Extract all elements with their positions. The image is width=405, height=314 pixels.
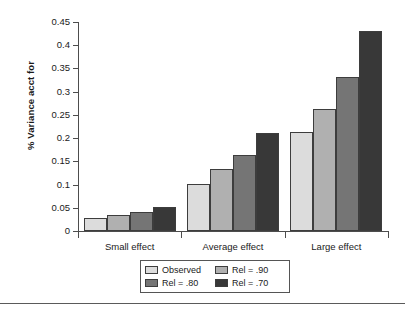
y-axis-tick [73, 208, 79, 209]
x-axis-category-label: Large effect [286, 241, 386, 252]
bar [107, 215, 130, 231]
legend-entry: Rel = .90 [215, 265, 285, 275]
y-axis-tick [73, 68, 79, 69]
bars-layer [78, 22, 389, 231]
x-axis-tick [388, 232, 389, 238]
bar-chart-figure: % Variance acct for 00.050.10.150.20.250… [0, 0, 405, 314]
y-axis-tick-label: 0.2 [30, 133, 70, 143]
legend-entry: Rel = .70 [215, 278, 285, 288]
bar [336, 77, 359, 231]
bar [84, 218, 107, 231]
bar [210, 169, 233, 231]
legend-swatch-icon [215, 266, 228, 274]
bar [233, 155, 256, 231]
y-axis-tick-label: 0.3 [30, 87, 70, 97]
legend-swatch-icon [145, 266, 158, 274]
y-axis-tick-label: 0.1 [30, 180, 70, 190]
legend-label: Rel = .70 [232, 278, 268, 288]
bar [256, 133, 279, 231]
bar [187, 184, 210, 231]
y-axis-tick-label: 0.25 [30, 110, 70, 120]
x-axis-tick [78, 232, 79, 238]
x-axis-category-label: Average effect [183, 241, 283, 252]
legend-entry: Rel = .80 [145, 278, 215, 288]
y-axis-tick [73, 161, 79, 162]
y-axis-tick [73, 115, 79, 116]
x-axis-tick [181, 232, 182, 238]
bar [313, 109, 336, 231]
y-axis-tick-label: 0.05 [30, 203, 70, 213]
y-axis-tick [73, 92, 79, 93]
legend-label: Observed [162, 265, 201, 275]
y-axis-tick-label: 0.35 [30, 63, 70, 73]
y-axis-tick-label: 0.4 [30, 40, 70, 50]
x-axis-line [78, 231, 389, 232]
bottom-divider [0, 303, 405, 304]
y-axis-tick [73, 185, 79, 186]
y-axis-tick [73, 45, 79, 46]
bar [153, 207, 176, 231]
x-axis-tick [285, 232, 286, 238]
bar [290, 132, 313, 231]
y-axis-tick-label: 0.15 [30, 156, 70, 166]
legend-swatch-icon [145, 279, 158, 287]
legend-label: Rel = .90 [232, 265, 268, 275]
legend-label: Rel = .80 [162, 278, 198, 288]
y-axis-tick-labels: 00.050.10.150.20.250.30.350.40.45 [28, 0, 70, 314]
y-axis-tick [73, 22, 79, 23]
y-axis-tick [73, 138, 79, 139]
x-axis-category-label: Small effect [80, 241, 180, 252]
legend-entry: Observed [145, 265, 215, 275]
legend-swatch-icon [215, 279, 228, 287]
bar [359, 31, 382, 231]
chart-legend: ObservedRel = .90Rel = .80Rel = .70 [140, 260, 290, 293]
bar [130, 212, 153, 231]
y-axis-tick-label: 0.45 [30, 17, 70, 27]
y-axis-tick-label: 0 [30, 226, 70, 236]
